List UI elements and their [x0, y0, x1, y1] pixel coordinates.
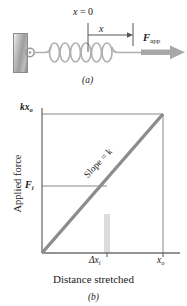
- xtick-delta-xi-sub: i: [99, 259, 101, 266]
- xtick-label-delta-xi: Δxi: [89, 256, 101, 266]
- ytick-label-fi: Fi: [25, 180, 34, 191]
- y-axis-label: Applied force: [12, 129, 23, 239]
- spring-lead-right: [112, 47, 141, 53]
- applied-force-subscript: app: [150, 37, 160, 45]
- panel-a-graphics: [0, 0, 187, 96]
- ytick-label-kxo: kxo: [20, 103, 33, 113]
- xtick-delta-xi-main: Δx: [89, 255, 99, 265]
- spring-anchor-pin: [29, 51, 32, 54]
- origin-label: x = 0: [73, 7, 93, 17]
- applied-force-label: Fapp: [143, 33, 160, 45]
- panel-a-caption: (a): [82, 76, 93, 86]
- applied-force-symbol: F: [143, 32, 150, 43]
- delta-x-strip: [104, 214, 110, 253]
- ytick-fi-sub: i: [32, 184, 34, 191]
- panel-b-caption: (b): [0, 292, 187, 302]
- ytick-fi-main: F: [25, 179, 32, 190]
- x-axis-label: Distance stretched: [0, 273, 187, 285]
- spring-coils: [50, 43, 113, 62]
- displacement-label: x: [99, 24, 103, 34]
- panel-a-spring-diagram: x = 0 x Fapp (a): [0, 0, 187, 96]
- ytick-kxo-sub: o: [30, 106, 33, 113]
- displacement-arrow-head: [127, 32, 133, 38]
- panel-b-force-vs-distance-chart: Applied force kxo Fi Slope = k Δxi xo Di…: [0, 96, 187, 306]
- force-vs-distance-line: [42, 114, 163, 253]
- applied-force-arrow: [141, 46, 185, 60]
- xtick-label-xo: xo: [157, 256, 164, 266]
- ytick-kxo-main: kx: [20, 102, 30, 112]
- physics-figure-spring-force: x = 0 x Fapp (a) Applied force kxo F: [0, 0, 187, 306]
- spring-lead-left: [34, 47, 51, 53]
- xtick-xo-sub: o: [161, 259, 164, 266]
